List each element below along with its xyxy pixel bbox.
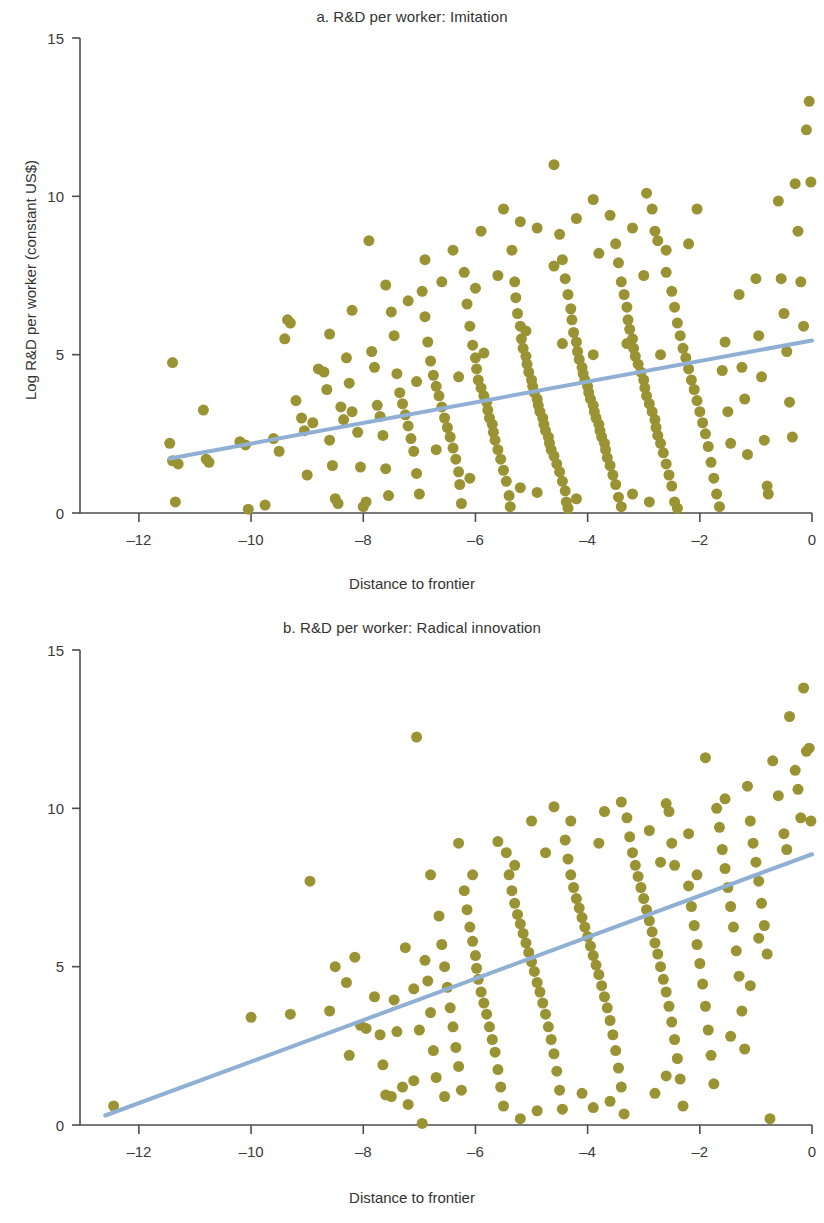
svg-text:‒8: ‒8	[355, 1143, 372, 1160]
chart-a-plot: 051015‒12‒10‒8‒6‒4‒20	[0, 0, 824, 612]
svg-text:10: 10	[47, 188, 64, 205]
svg-text:10: 10	[47, 800, 64, 817]
svg-text:‒6: ‒6	[467, 1143, 484, 1160]
svg-text:5: 5	[56, 346, 64, 363]
svg-text:‒4: ‒4	[579, 531, 596, 548]
svg-text:0: 0	[56, 1117, 64, 1134]
svg-text:15: 15	[47, 642, 64, 659]
svg-text:15: 15	[47, 30, 64, 47]
chart-panel-a: a. R&D per worker: Imitation 051015‒12‒1…	[0, 0, 824, 612]
svg-text:0: 0	[808, 1143, 816, 1160]
chart-a-y-axis-title: Log R&D per worker (constant US$)	[22, 160, 39, 400]
svg-text:0: 0	[808, 531, 816, 548]
svg-text:‒2: ‒2	[691, 531, 708, 548]
svg-text:‒10: ‒10	[239, 531, 264, 548]
chart-panel-b: b. R&D per worker: Radical innovation 05…	[0, 611, 824, 1223]
chart-b-x-axis-title: Distance to frontier	[0, 1189, 824, 1206]
svg-text:‒2: ‒2	[691, 1143, 708, 1160]
svg-text:‒4: ‒4	[579, 1143, 596, 1160]
svg-text:‒12: ‒12	[126, 531, 151, 548]
svg-text:‒10: ‒10	[239, 1143, 264, 1160]
svg-text:0: 0	[56, 505, 64, 522]
svg-text:‒8: ‒8	[355, 531, 372, 548]
chart-b-plot: 051015‒12‒10‒8‒6‒4‒20	[0, 611, 824, 1223]
svg-text:‒6: ‒6	[467, 531, 484, 548]
svg-text:5: 5	[56, 958, 64, 975]
figure-page: a. R&D per worker: Imitation 051015‒12‒1…	[0, 0, 824, 1223]
svg-text:‒12: ‒12	[126, 1143, 151, 1160]
chart-a-x-axis-title: Distance to frontier	[0, 575, 824, 592]
